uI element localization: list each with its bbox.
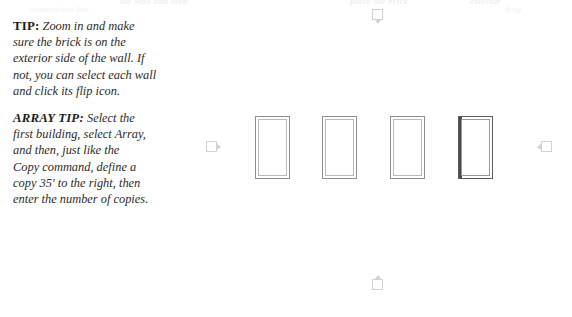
tip-line: Copy command, define a: [13, 159, 203, 175]
tip-line: first building, select Array,: [13, 126, 203, 142]
view-marker-right-icon[interactable]: [541, 141, 552, 152]
document-page: the wall and then place the brick exteri…: [0, 0, 572, 317]
view-marker-left-tab-icon: [217, 144, 221, 150]
tip-line: TIP: Zoom in and make: [13, 18, 203, 34]
tip-line: copy 35′ to the right, then: [13, 175, 203, 191]
building-3[interactable]: [390, 116, 425, 179]
view-marker-right-tab-icon: [537, 144, 541, 150]
bleed-fragment-4: construction line: [30, 5, 89, 14]
building-2[interactable]: [322, 116, 357, 179]
tip-column: TIP: Zoom in and make sure the brick is …: [13, 18, 203, 218]
tip-line: enter the number of copies.: [13, 191, 203, 207]
building-1-interior: [258, 119, 287, 176]
tip-line: and click its flip icon.: [13, 83, 203, 99]
tip-heading: TIP:: [13, 19, 39, 33]
tip-block-array: ARRAY TIP: Select the first building, se…: [13, 110, 203, 207]
view-marker-bottom-icon[interactable]: [372, 279, 383, 290]
view-marker-top-tab-icon: [375, 20, 381, 24]
tip-line: not, you can select each wall: [13, 67, 203, 83]
tip-line: sure the brick is on the: [13, 34, 203, 50]
building-4-interior: [461, 119, 490, 176]
tip-line: exterior side of the wall. If: [13, 50, 203, 66]
array-tip-first-line-text: Select the: [84, 111, 135, 125]
array-tip-heading: ARRAY TIP:: [13, 111, 84, 125]
view-marker-left-icon[interactable]: [206, 141, 217, 152]
view-marker-bottom-tab-icon: [375, 275, 381, 279]
view-marker-top-icon[interactable]: [372, 9, 383, 20]
building-4[interactable]: [458, 116, 493, 179]
tip-line: and then, just like the: [13, 142, 203, 158]
tip-line: ARRAY TIP: Select the: [13, 110, 203, 126]
bleed-fragment-1: the wall and then: [120, 0, 187, 6]
scan-artifact: [495, 303, 555, 310]
tip-first-line-text: Zoom in and make: [39, 19, 134, 33]
building-2-interior: [325, 119, 354, 176]
tip-block-flip: TIP: Zoom in and make sure the brick is …: [13, 18, 203, 99]
building-3-interior: [393, 119, 422, 176]
floor-plan-drawing: [200, 0, 572, 317]
building-1[interactable]: [255, 116, 290, 179]
